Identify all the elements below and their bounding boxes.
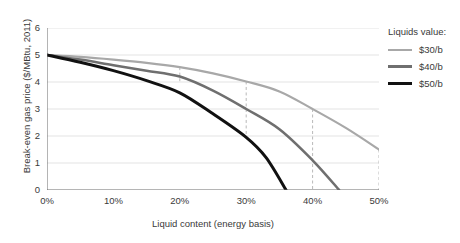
y-tick-label: 6 (14, 23, 40, 33)
series-line (47, 55, 339, 190)
x-tick-label: 30% (226, 196, 266, 206)
x-tick-label: 20% (160, 196, 200, 206)
x-tick-label: 10% (93, 196, 133, 206)
legend-item: $50/b (388, 78, 460, 89)
plot-area (47, 28, 379, 190)
legend-item: $30/b (388, 44, 460, 55)
y-tick-label: 4 (14, 77, 40, 87)
legend-color-swatch (388, 82, 412, 85)
legend-title: Liquids value: (388, 26, 460, 37)
y-tick-label: 3 (14, 104, 40, 114)
y-tick-label: 1 (14, 158, 40, 168)
legend-item: $40/b (388, 61, 460, 72)
x-tick-label: 50% (359, 196, 399, 206)
legend-items: $30/b$40/b$50/b (388, 44, 460, 89)
legend-color-swatch (388, 49, 412, 51)
y-tick-label: 5 (14, 50, 40, 60)
y-tick-label: 2 (14, 131, 40, 141)
plot-svg (47, 28, 379, 190)
gridlines (47, 28, 379, 163)
break-even-gas-price-chart: Break-even gas price ($/MBtu, 2011) 0123… (0, 0, 460, 243)
x-tick-label: 0% (27, 196, 67, 206)
legend-label: $50/b (419, 78, 443, 89)
legend-color-swatch (388, 65, 412, 68)
legend-label: $40/b (419, 61, 443, 72)
series-lines (47, 55, 379, 190)
x-tick-label: 40% (293, 196, 333, 206)
series-line (47, 55, 379, 150)
legend-label: $30/b (419, 44, 443, 55)
legend: Liquids value: $30/b$40/b$50/b (388, 26, 460, 95)
series-line (47, 55, 286, 190)
x-axis-title: Liquid content (energy basis) (47, 218, 379, 229)
y-tick-label: 0 (14, 185, 40, 195)
